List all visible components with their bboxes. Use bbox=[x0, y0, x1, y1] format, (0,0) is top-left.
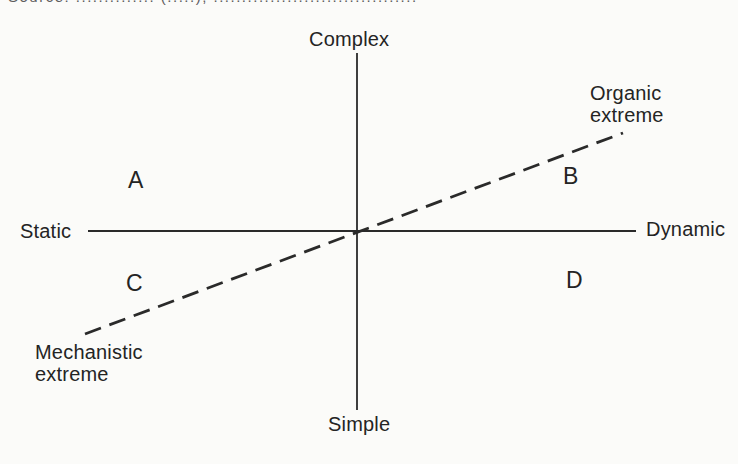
diagonal-label-organic-extreme: Organic extreme bbox=[590, 82, 664, 126]
environment-matrix-figure: Source: .............. (.....), ........… bbox=[0, 0, 738, 464]
quadrant-label-c: C bbox=[126, 270, 143, 297]
diagonal-label-mechanistic-extreme: Mechanistic extreme bbox=[35, 341, 143, 385]
quadrant-label-b: B bbox=[563, 163, 578, 190]
axis-label-complex: Complex bbox=[309, 28, 389, 50]
quadrant-label-d: D bbox=[566, 267, 583, 294]
axis-label-simple: Simple bbox=[328, 413, 390, 435]
axis-label-static: Static bbox=[20, 220, 71, 242]
diagonal-dashed-line bbox=[85, 133, 623, 334]
quadrant-label-a: A bbox=[128, 167, 143, 194]
axes-graphic bbox=[0, 0, 738, 464]
axis-label-dynamic: Dynamic bbox=[646, 218, 725, 240]
